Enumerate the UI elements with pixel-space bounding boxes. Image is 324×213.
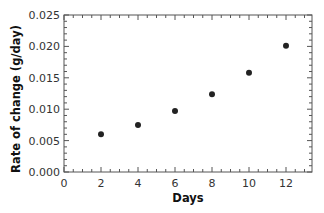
y-tick-label: 0.015 xyxy=(29,72,61,85)
y-tick-label: 0.000 xyxy=(29,166,61,179)
axis-ticks xyxy=(64,15,312,172)
y-tick-label: 0.025 xyxy=(29,9,61,22)
x-tick-label: 6 xyxy=(172,177,179,190)
x-axis-tick-labels: 024681012 xyxy=(61,177,294,190)
data-point xyxy=(246,70,252,76)
y-tick-label: 0.010 xyxy=(29,103,61,116)
data-point xyxy=(172,108,178,114)
y-axis-tick-labels: 0.0000.0050.0100.0150.0200.025 xyxy=(29,9,61,179)
data-point xyxy=(209,91,215,97)
x-axis-title: Days xyxy=(172,191,203,205)
data-points xyxy=(98,43,289,138)
plot-frame xyxy=(64,15,312,172)
x-tick-label: 12 xyxy=(279,177,293,190)
scatter-chart: 0.0000.0050.0100.0150.0200.025 024681012… xyxy=(0,0,324,213)
y-tick-label: 0.020 xyxy=(29,40,61,53)
x-tick-label: 10 xyxy=(242,177,256,190)
data-point xyxy=(98,131,104,137)
y-axis-title: Rate of change (g/day) xyxy=(9,25,23,173)
x-tick-label: 4 xyxy=(135,177,142,190)
y-tick-label: 0.005 xyxy=(29,135,61,148)
x-tick-label: 8 xyxy=(209,177,216,190)
data-point xyxy=(135,122,141,128)
x-tick-label: 2 xyxy=(98,177,105,190)
x-tick-label: 0 xyxy=(61,177,68,190)
data-point xyxy=(283,43,289,49)
